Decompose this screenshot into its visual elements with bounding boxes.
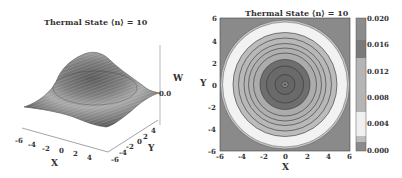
- x-tick: -4: [238, 152, 246, 161]
- y-tick: -6: [208, 147, 216, 156]
- colorbar-tick: 0.004: [367, 119, 389, 128]
- x-tick: 0: [283, 152, 288, 161]
- y-tick: 6: [212, 14, 217, 23]
- y-tick: -2: [208, 103, 216, 112]
- x-tick: -6: [216, 152, 224, 161]
- y-tick: 2: [212, 59, 217, 68]
- colorbar-tick: 0.020: [367, 14, 389, 23]
- y-tick: -4: [208, 125, 216, 134]
- y-tick: 4: [212, 37, 217, 46]
- x-tick: 4: [326, 152, 331, 161]
- y-axis-label: Y: [200, 78, 206, 88]
- colorbar-tick: 0.000: [367, 146, 389, 155]
- x-tick: 2: [305, 152, 310, 161]
- colorbar-tick: 0.012: [367, 67, 389, 76]
- colorbar-tick: 0.008: [367, 93, 389, 102]
- y-tick: 0: [212, 81, 217, 90]
- x-tick: -2: [260, 152, 268, 161]
- colorbar-tick: 0.016: [367, 40, 389, 49]
- x-axis-label: X: [282, 162, 289, 172]
- x-tick: 6: [347, 152, 352, 161]
- contour-map: [0, 0, 402, 178]
